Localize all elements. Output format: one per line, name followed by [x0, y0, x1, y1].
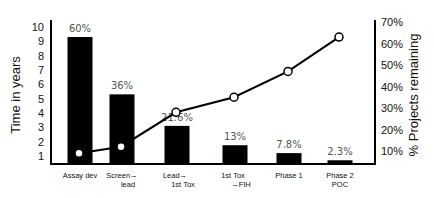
- bar: [110, 94, 135, 164]
- x-tick-label: 1st Tox: [171, 180, 195, 189]
- x-tick-label: POC: [332, 180, 349, 189]
- x-tick-label: Phase 1: [275, 171, 303, 180]
- x-tick-label: Assay dev: [63, 171, 98, 180]
- line-marker: [172, 108, 180, 116]
- bar-value-label: 13%: [224, 131, 246, 142]
- line-marker: [75, 149, 83, 157]
- line-marker: [117, 143, 125, 151]
- y-tick-label: 5: [38, 93, 44, 105]
- y-tick-label: 7: [38, 64, 44, 76]
- bar: [223, 145, 248, 164]
- x-tick-label: Phase 2: [326, 171, 354, 180]
- x-axis-ticks: Assay devScreen→leadLead→1st Tox1st Tox→…: [63, 171, 354, 189]
- y-tick-label: 1: [38, 150, 44, 162]
- y2-tick-label: 70%: [381, 16, 403, 28]
- y2-tick-label: 10%: [381, 145, 403, 157]
- y-tick-label: 2: [38, 136, 44, 148]
- y2-tick-label: 20%: [381, 124, 403, 136]
- bar-value-label: 7.8%: [276, 139, 301, 150]
- y-tick-label: 8: [38, 50, 44, 62]
- bar-series: 60%36%21.6%13%7.8%2.3%: [68, 23, 353, 164]
- y-tick-label: 10: [32, 21, 44, 33]
- line-marker: [230, 93, 238, 101]
- y2-tick-label: 50%: [381, 59, 403, 71]
- y2-tick-label: 40%: [381, 81, 403, 93]
- y2-tick-label: 30%: [381, 102, 403, 114]
- line-marker: [284, 67, 292, 75]
- bar-value-label: 36%: [111, 80, 133, 91]
- bar: [277, 153, 302, 164]
- y-tick-label: 4: [38, 107, 44, 119]
- bar: [68, 37, 93, 164]
- y-tick-label: 6: [38, 78, 44, 90]
- x-tick-label: Screen→: [106, 171, 137, 180]
- line-marker: [335, 33, 343, 41]
- chart: 12345678910 10%20%30%40%50%60%70% Time i…: [0, 0, 434, 198]
- right-axis-label: % Projects remaining: [406, 34, 421, 157]
- x-tick-label: →FIH: [231, 180, 251, 189]
- bar: [165, 126, 190, 164]
- x-tick-label: 1st Tox: [221, 171, 245, 180]
- x-tick-label: lead: [121, 180, 135, 189]
- left-axis-label: Time in years: [8, 56, 23, 134]
- y2-tick-label: 60%: [381, 38, 403, 50]
- x-tick-label: Lead→: [163, 171, 187, 180]
- bar-value-label: 60%: [69, 23, 91, 34]
- left-axis-ticks: 12345678910: [32, 21, 44, 162]
- bar-value-label: 2.3%: [327, 146, 352, 157]
- y-tick-label: 3: [38, 121, 44, 133]
- y-tick-label: 9: [38, 35, 44, 47]
- right-axis-ticks: 10%20%30%40%50%60%70%: [381, 16, 403, 157]
